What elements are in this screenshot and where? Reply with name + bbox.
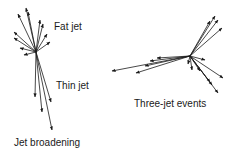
three-jet-arrow [190, 56, 218, 93]
three-jet-arrow [190, 20, 218, 56]
three-jet-arrow [188, 56, 190, 64]
jet-diagram [0, 0, 244, 153]
three-jet-events-label: Three-jet events [134, 98, 206, 109]
thin-jet [35, 52, 52, 130]
fat-jet-label: Fat jet [54, 21, 82, 32]
three-jet-arrow [112, 56, 190, 71]
three-jet-event [112, 16, 223, 93]
three-jet-arrow [190, 56, 223, 78]
thin-jet-label: Thin jet [56, 80, 89, 91]
three-jet-arrow [190, 21, 210, 56]
thin-jet-arrow [35, 52, 36, 97]
three-jet-arrow [190, 28, 222, 56]
thin-jet-arrow [36, 52, 52, 130]
fat-jet-arrow [24, 52, 36, 55]
jet-broadening-label: Jet broadening [14, 137, 80, 148]
fat-jet [14, 8, 50, 55]
